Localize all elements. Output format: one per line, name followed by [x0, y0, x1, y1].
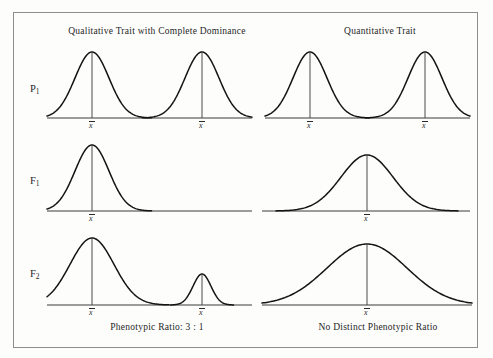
mean-symbol: x — [89, 308, 93, 317]
mean-label: x — [364, 308, 370, 317]
figure-border — [13, 12, 478, 348]
mean-label: x — [89, 214, 95, 223]
row-label-f2: F2 — [30, 268, 40, 279]
mean-label: x — [422, 121, 428, 130]
mean-label: x — [364, 214, 370, 223]
column-title-qualitative: Qualitative Trait with Complete Dominanc… — [47, 26, 267, 36]
mean-symbol: x — [89, 214, 93, 223]
mean-label: x — [89, 121, 95, 130]
mean-label: x — [307, 121, 313, 130]
row-label-f2-sub: 2 — [36, 272, 40, 281]
mean-label: x — [199, 308, 205, 317]
mean-label: x — [89, 308, 95, 317]
mean-symbol: x — [199, 121, 203, 130]
column-title-quantitative: Quantitative Trait — [300, 26, 460, 36]
mean-symbol: x — [364, 214, 368, 223]
mean-symbol: x — [89, 121, 93, 130]
row-label-f1-base: F — [30, 175, 36, 186]
footer-note-quantitative: No Distinct Phenotypic Ratio — [288, 322, 468, 332]
figure-root: Qualitative Trait with Complete Dominanc… — [0, 0, 493, 358]
mean-symbol: x — [364, 308, 368, 317]
mean-symbol: x — [307, 121, 311, 130]
row-label-f2-base: F — [30, 268, 36, 279]
row-label-f1-sub: 1 — [36, 179, 40, 188]
row-label-f1: F1 — [30, 175, 40, 186]
mean-symbol: x — [199, 308, 203, 317]
row-label-p1-base: P — [30, 83, 36, 94]
mean-symbol: x — [422, 121, 426, 130]
mean-label: x — [199, 121, 205, 130]
row-label-p1-sub: 1 — [36, 87, 40, 96]
row-label-p1: P1 — [30, 83, 40, 94]
footer-note-qualitative: Phenotypic Ratio: 3 : 1 — [47, 322, 267, 332]
